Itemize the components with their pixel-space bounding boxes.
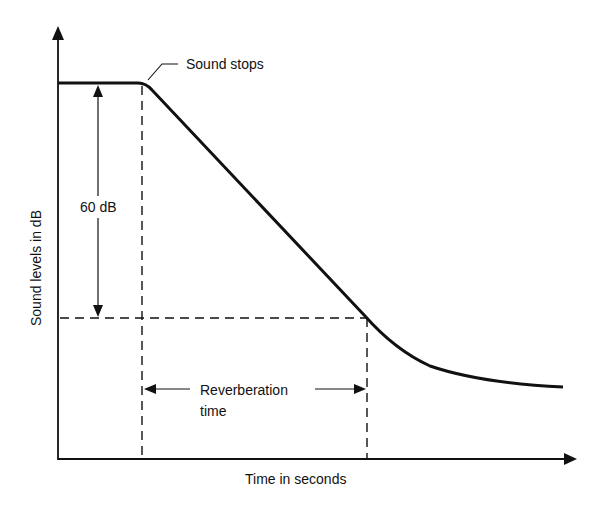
- x-axis-arrow-icon: [564, 453, 577, 465]
- x-axis: [58, 453, 577, 465]
- x-axis-label: Time in seconds: [245, 471, 346, 487]
- sound-level-curve: [58, 83, 563, 387]
- reverberation-time-label-line2: time: [200, 403, 227, 419]
- y-axis-label: Sound levels in dB: [28, 210, 44, 326]
- reverberation-time-label-line1: Reverberation: [200, 382, 288, 398]
- arrow-up-icon: [93, 85, 103, 97]
- y-axis-arrow-icon: [52, 26, 64, 40]
- arrow-right-icon: [354, 384, 366, 394]
- arrow-left-icon: [144, 384, 156, 394]
- sound-stops-label: Sound stops: [186, 56, 264, 72]
- arrow-down-icon: [93, 305, 103, 317]
- y-axis: [52, 26, 64, 460]
- drop-60db-label: 60 dB: [80, 199, 117, 215]
- reverberation-diagram: 60 dB Reverberation time Sound stops Tim…: [0, 0, 604, 517]
- sound-stops-leader-line: [148, 64, 178, 80]
